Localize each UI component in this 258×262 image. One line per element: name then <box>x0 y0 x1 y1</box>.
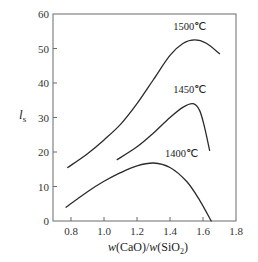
x-axis-ticks: 0.81.01.21.41.61.8 <box>64 217 243 237</box>
y-tick-label: 0 <box>44 215 50 227</box>
data-curves <box>66 40 220 221</box>
y-axis-ticks: 0102030405060 <box>38 8 57 227</box>
y-tick-label: 50 <box>38 43 50 55</box>
curve-1400 <box>66 163 211 221</box>
x-tick-label: 0.8 <box>64 225 78 237</box>
y-tick-label: 40 <box>38 77 50 89</box>
x-tick-label: 1.4 <box>163 225 177 237</box>
y-tick-label: 60 <box>38 8 50 20</box>
x-tick-label: 1.0 <box>97 225 111 237</box>
chart: 0102030405060 0.81.01.21.41.61.8 1500℃14… <box>0 0 258 262</box>
y-tick-label: 30 <box>38 112 50 124</box>
y-axis-label: ls <box>19 107 27 124</box>
x-tick-label: 1.2 <box>130 225 144 237</box>
curve-label-1500: 1500℃ <box>173 21 206 32</box>
y-tick-label: 10 <box>38 181 50 193</box>
curve-label-1450: 1450℃ <box>173 84 206 95</box>
x-tick-label: 1.6 <box>196 225 210 237</box>
x-axis-label: w(CaO)/w(SiO2) <box>108 240 188 256</box>
y-tick-label: 20 <box>38 146 50 158</box>
line-chart: 0102030405060 0.81.01.21.41.61.8 1500℃14… <box>0 0 258 262</box>
x-tick-label: 1.8 <box>229 225 243 237</box>
curve-label-1400: 1400℃ <box>165 148 198 159</box>
